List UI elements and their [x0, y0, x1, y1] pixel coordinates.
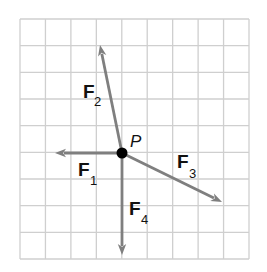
f3-label: F — [177, 151, 189, 172]
f2-shaft — [102, 54, 122, 153]
label-f3: F 3 — [177, 151, 196, 181]
label-f4: F 4 — [129, 198, 148, 227]
vector-f3 — [122, 153, 222, 202]
f2-subscript: 2 — [94, 94, 101, 109]
vector-f4 — [118, 153, 126, 255]
f2-label: F — [83, 81, 95, 102]
label-f2: F 2 — [83, 81, 101, 109]
f4-label: F — [129, 198, 141, 219]
f3-subscript: 3 — [189, 166, 196, 181]
f1-label: F — [78, 159, 90, 180]
point-p-dot — [117, 148, 128, 159]
f4-subscript: 4 — [141, 212, 148, 227]
point-p-label: P — [130, 132, 142, 151]
vector-f1 — [55, 149, 122, 157]
force-vector-diagram: P F 1 F 2 F 3 F 4 — [0, 0, 267, 272]
label-f1: F 1 — [78, 159, 97, 188]
f1-subscript: 1 — [90, 173, 97, 188]
f3-shaft — [122, 153, 214, 198]
